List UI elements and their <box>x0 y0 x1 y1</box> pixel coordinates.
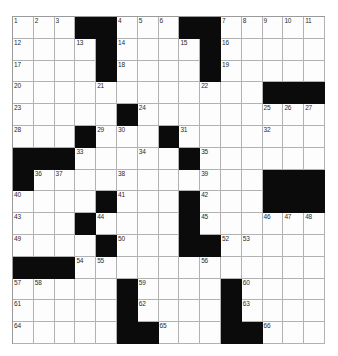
crossword-cell[interactable] <box>34 322 55 344</box>
crossword-cell[interactable] <box>242 104 263 126</box>
crossword-cell[interactable] <box>159 104 180 126</box>
crossword-cell[interactable] <box>200 322 221 344</box>
crossword-cell[interactable] <box>34 191 55 213</box>
crossword-cell[interactable]: 19 <box>221 61 242 83</box>
crossword-cell[interactable] <box>117 148 138 170</box>
crossword-cell[interactable] <box>283 126 304 148</box>
crossword-cell[interactable]: 31 <box>179 126 200 148</box>
crossword-cell[interactable] <box>75 322 96 344</box>
crossword-cell[interactable] <box>304 39 325 61</box>
crossword-cell[interactable]: 32 <box>263 126 284 148</box>
crossword-cell[interactable] <box>159 257 180 279</box>
crossword-cell[interactable] <box>34 39 55 61</box>
crossword-cell[interactable] <box>242 39 263 61</box>
crossword-cell[interactable] <box>179 170 200 192</box>
crossword-cell[interactable]: 40 <box>13 191 34 213</box>
crossword-cell[interactable]: 17 <box>13 61 34 83</box>
crossword-cell[interactable] <box>34 235 55 257</box>
crossword-cell[interactable]: 8 <box>242 17 263 39</box>
crossword-cell[interactable] <box>200 126 221 148</box>
crossword-cell[interactable]: 41 <box>117 191 138 213</box>
crossword-cell[interactable] <box>75 279 96 301</box>
crossword-cell[interactable] <box>159 213 180 235</box>
crossword-cell[interactable] <box>55 213 76 235</box>
crossword-cell[interactable]: 7 <box>221 17 242 39</box>
crossword-cell[interactable] <box>138 82 159 104</box>
crossword-grid[interactable]: 1234567891011121314151617181920212223242… <box>12 16 325 344</box>
crossword-cell[interactable]: 28 <box>13 126 34 148</box>
crossword-cell[interactable] <box>138 61 159 83</box>
crossword-cell[interactable] <box>159 170 180 192</box>
crossword-cell[interactable]: 25 <box>263 104 284 126</box>
crossword-cell[interactable] <box>75 300 96 322</box>
crossword-cell[interactable] <box>304 322 325 344</box>
crossword-cell[interactable] <box>283 61 304 83</box>
crossword-cell[interactable]: 39 <box>200 170 221 192</box>
crossword-cell[interactable] <box>263 279 284 301</box>
crossword-cell[interactable]: 3 <box>55 17 76 39</box>
crossword-cell[interactable]: 45 <box>200 213 221 235</box>
crossword-cell[interactable] <box>283 39 304 61</box>
crossword-cell[interactable] <box>96 300 117 322</box>
crossword-cell[interactable] <box>304 235 325 257</box>
crossword-cell[interactable] <box>263 300 284 322</box>
crossword-cell[interactable] <box>55 322 76 344</box>
crossword-cell[interactable]: 50 <box>117 235 138 257</box>
crossword-cell[interactable]: 42 <box>200 191 221 213</box>
crossword-cell[interactable] <box>117 257 138 279</box>
crossword-cell[interactable] <box>179 104 200 126</box>
crossword-cell[interactable] <box>179 322 200 344</box>
crossword-cell[interactable] <box>304 61 325 83</box>
crossword-cell[interactable] <box>75 191 96 213</box>
crossword-cell[interactable] <box>221 148 242 170</box>
crossword-cell[interactable] <box>263 257 284 279</box>
crossword-cell[interactable] <box>96 279 117 301</box>
crossword-cell[interactable] <box>138 213 159 235</box>
crossword-cell[interactable]: 27 <box>304 104 325 126</box>
crossword-cell[interactable] <box>55 235 76 257</box>
crossword-cell[interactable]: 58 <box>34 279 55 301</box>
crossword-cell[interactable] <box>221 126 242 148</box>
crossword-cell[interactable] <box>179 82 200 104</box>
crossword-cell[interactable]: 13 <box>75 39 96 61</box>
crossword-cell[interactable]: 30 <box>117 126 138 148</box>
crossword-cell[interactable]: 49 <box>13 235 34 257</box>
crossword-cell[interactable] <box>75 61 96 83</box>
crossword-cell[interactable] <box>159 82 180 104</box>
crossword-cell[interactable]: 53 <box>242 235 263 257</box>
crossword-cell[interactable]: 46 <box>263 213 284 235</box>
crossword-cell[interactable]: 1 <box>13 17 34 39</box>
crossword-cell[interactable] <box>283 322 304 344</box>
crossword-cell[interactable] <box>179 257 200 279</box>
crossword-cell[interactable] <box>283 300 304 322</box>
crossword-cell[interactable] <box>179 61 200 83</box>
crossword-cell[interactable]: 48 <box>304 213 325 235</box>
crossword-cell[interactable] <box>55 300 76 322</box>
crossword-cell[interactable]: 5 <box>138 17 159 39</box>
crossword-cell[interactable] <box>96 104 117 126</box>
crossword-cell[interactable]: 9 <box>263 17 284 39</box>
crossword-cell[interactable]: 35 <box>200 148 221 170</box>
crossword-cell[interactable]: 29 <box>96 126 117 148</box>
crossword-cell[interactable]: 11 <box>304 17 325 39</box>
crossword-cell[interactable] <box>221 257 242 279</box>
crossword-cell[interactable] <box>75 104 96 126</box>
crossword-cell[interactable] <box>221 104 242 126</box>
crossword-cell[interactable]: 64 <box>13 322 34 344</box>
crossword-cell[interactable]: 61 <box>13 300 34 322</box>
crossword-cell[interactable] <box>34 82 55 104</box>
crossword-cell[interactable] <box>304 148 325 170</box>
crossword-cell[interactable] <box>304 279 325 301</box>
crossword-cell[interactable] <box>159 191 180 213</box>
crossword-cell[interactable]: 20 <box>13 82 34 104</box>
crossword-cell[interactable] <box>200 300 221 322</box>
crossword-cell[interactable]: 54 <box>75 257 96 279</box>
crossword-cell[interactable]: 12 <box>13 39 34 61</box>
crossword-cell[interactable] <box>138 170 159 192</box>
crossword-cell[interactable] <box>159 300 180 322</box>
crossword-cell[interactable] <box>55 279 76 301</box>
crossword-cell[interactable] <box>34 126 55 148</box>
crossword-cell[interactable]: 56 <box>200 257 221 279</box>
crossword-cell[interactable]: 66 <box>263 322 284 344</box>
crossword-cell[interactable] <box>117 213 138 235</box>
